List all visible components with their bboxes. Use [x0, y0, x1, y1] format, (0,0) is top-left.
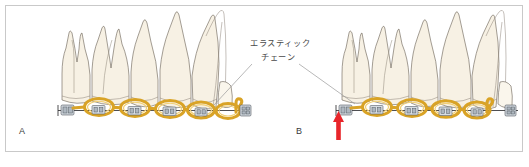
- bracket-b1: [370, 106, 383, 115]
- annotation-line-1: エラスティック: [250, 38, 310, 48]
- bracket-a1: [92, 106, 105, 115]
- bracket-b2: [405, 107, 418, 116]
- terminal-bracket-b: [505, 105, 516, 116]
- figure-container: A: [0, 0, 529, 167]
- annotation-line-2: チェーン: [261, 52, 295, 62]
- terminal-bracket-a: [240, 105, 251, 116]
- panel-label-a: A: [19, 126, 25, 136]
- dental-illustration: A: [0, 0, 529, 167]
- bracket-b4: [471, 108, 483, 116]
- bracket-a4: [195, 108, 207, 116]
- bracket-b3: [439, 107, 452, 116]
- bracket-a2: [128, 107, 141, 116]
- bracket-a3: [163, 107, 176, 116]
- panel-label-b: B: [296, 126, 302, 136]
